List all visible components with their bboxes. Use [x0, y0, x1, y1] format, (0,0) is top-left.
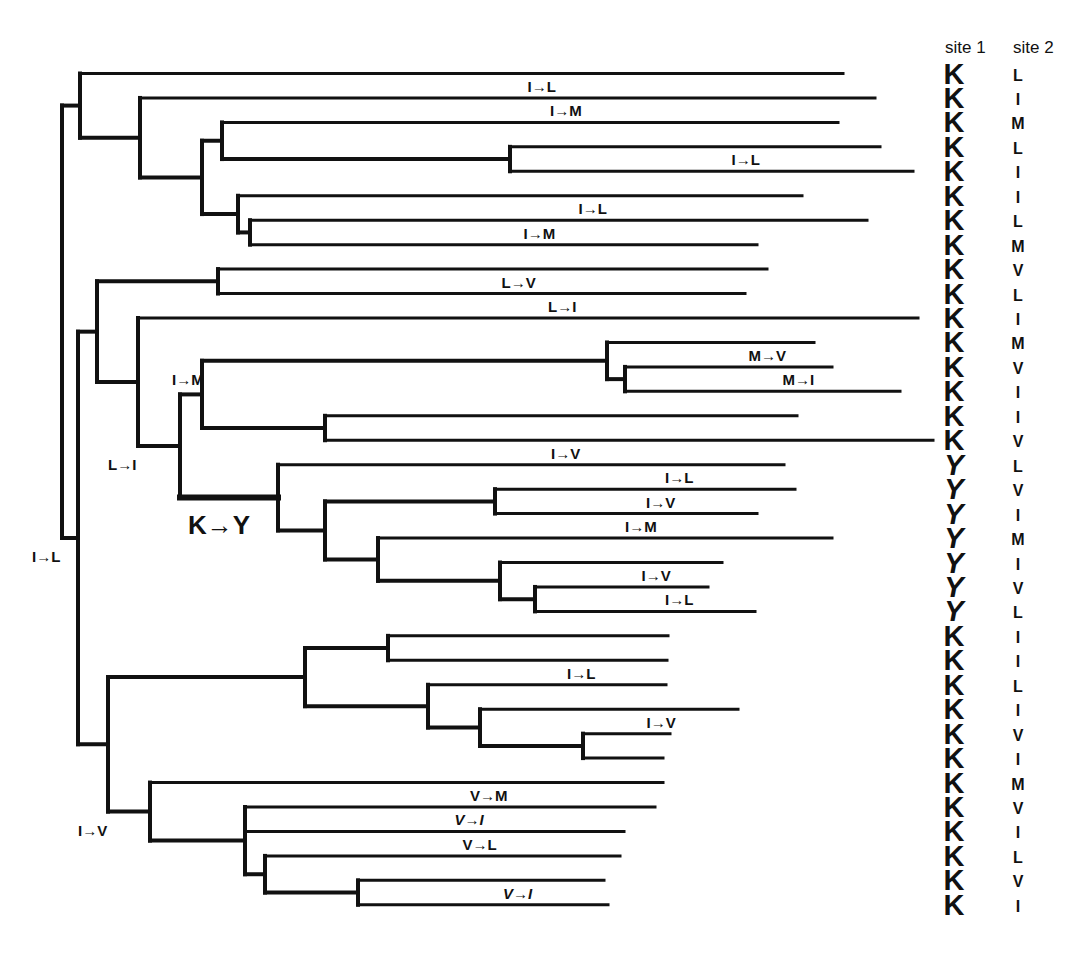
site2-residue: V: [1008, 874, 1028, 890]
mutation-label: I→L: [579, 200, 607, 217]
mutation-label: V→L: [463, 836, 497, 853]
site2-residue: V: [1008, 581, 1028, 597]
mutation-label: I→L: [665, 591, 693, 608]
mutation-label: L→I: [108, 456, 136, 473]
site2-residue: V: [1008, 434, 1028, 450]
site2-residue: L: [1008, 850, 1028, 866]
site2-residue: I: [1008, 899, 1028, 915]
site2-residue: V: [1008, 263, 1028, 279]
site2-residue: I: [1008, 825, 1028, 841]
mutation-label: V→M: [470, 787, 508, 804]
site2-residue: M: [1008, 116, 1028, 132]
site2-residue: I: [1008, 92, 1028, 108]
phylogenetic-tree: I→LI→MI→LI→LI→MI→LL→VL→IL→II→MM→VM→IK→YI…: [0, 0, 940, 958]
site2-residue: I: [1008, 508, 1028, 524]
mutation-label: I→L: [732, 151, 760, 168]
site2-residue: L: [1008, 141, 1028, 157]
mutation-label: M→I: [783, 371, 815, 388]
mutation-label: V→I: [503, 885, 533, 902]
site2-residue: V: [1008, 483, 1028, 499]
site2-residue: M: [1008, 239, 1028, 255]
site2-header: site 2: [1013, 38, 1054, 58]
mutation-label: I→L: [528, 78, 556, 95]
site2-residue: L: [1008, 68, 1028, 84]
site2-residue: I: [1008, 703, 1028, 719]
site1-header: site 1: [945, 38, 986, 58]
site2-residue: V: [1008, 361, 1028, 377]
site2-residue: M: [1008, 777, 1028, 793]
site2-residue: L: [1008, 214, 1028, 230]
mutation-label: I→V: [647, 714, 676, 731]
site2-residue: I: [1008, 410, 1028, 426]
mutation-label: I→L: [32, 548, 60, 565]
mutation-label: V→I: [455, 811, 485, 828]
mutation-label: L→I: [548, 298, 576, 315]
site1-residue: K: [938, 891, 970, 920]
mutation-label: M→V: [749, 347, 787, 364]
mutation-label: I→V: [642, 567, 671, 584]
site2-residue: I: [1008, 654, 1028, 670]
site2-residue: M: [1008, 336, 1028, 352]
mutation-label: I→M: [172, 371, 204, 388]
site2-residue: V: [1008, 801, 1028, 817]
mutation-label: L→V: [502, 274, 536, 291]
mutation-label: I→V: [78, 822, 107, 839]
mutation-label: I→M: [625, 518, 657, 535]
site2-residue: I: [1008, 557, 1028, 573]
site2-residue: I: [1008, 630, 1028, 646]
site2-residue: I: [1008, 190, 1028, 206]
mutation-label: I→V: [646, 494, 675, 511]
mutation-label: I→L: [665, 469, 693, 486]
mutation-label: I→V: [551, 445, 580, 462]
site2-residue: L: [1008, 288, 1028, 304]
mutation-label: I→M: [550, 102, 582, 119]
site2-residue: L: [1008, 459, 1028, 475]
site2-residue: I: [1008, 165, 1028, 181]
site2-residue: V: [1008, 728, 1028, 744]
site2-residue: I: [1008, 312, 1028, 328]
site2-residue: I: [1008, 385, 1028, 401]
mutation-label-major: K→Y: [188, 510, 250, 540]
mutation-label: I→M: [524, 225, 556, 242]
site2-residue: L: [1008, 679, 1028, 695]
site2-residue: M: [1008, 532, 1028, 548]
site2-residue: I: [1008, 752, 1028, 768]
site2-residue: L: [1008, 605, 1028, 621]
mutation-label: I→L: [567, 665, 595, 682]
